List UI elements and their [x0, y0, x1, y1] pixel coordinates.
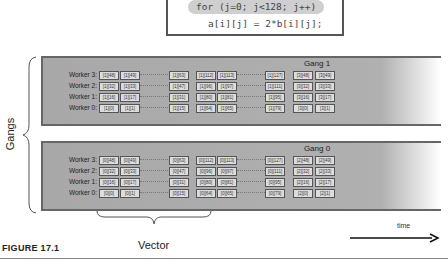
ellipsis-dots: [237, 170, 265, 171]
worker-row: Worker 3: [0][48] [0][49] [0][63] [0][11…: [43, 155, 441, 164]
vector-cell: [2][1]: [315, 189, 335, 198]
vector-cell: [0][127]: [265, 156, 285, 165]
worker-row: Worker 0: [1][0] [1][1] [1][15] [1][64] …: [43, 103, 441, 112]
vector-cell: [3][0]: [293, 104, 313, 113]
vector-cell: [0][81]: [217, 178, 237, 187]
vector-cell: [0][111]: [265, 167, 285, 176]
gang-1-panel: Gang 1 Worker 3: [1][48] [1][49] [1][63]…: [41, 56, 441, 126]
worker-row: Worker 3: [1][48] [1][49] [1][63] [1][11…: [43, 70, 441, 79]
vector-cell: [1][31]: [169, 93, 189, 102]
vector-cell: [1][49]: [120, 71, 140, 80]
ellipsis-dots: [140, 170, 168, 171]
worker-row: Worker 2: [0][32] [0][33] [0][47] [0][96…: [43, 166, 441, 175]
vector-cell: [0][80]: [196, 178, 216, 187]
worker-row: Worker 1: [1][16] [1][17] [1][31] [1][80…: [43, 92, 441, 101]
vector-cell: [0][112]: [196, 156, 216, 165]
loop-body-code: a[i][j] = 2*b[i][j];: [208, 18, 322, 30]
vector-cell: [1][33]: [120, 82, 140, 91]
vector-cell: [1][32]: [99, 82, 119, 91]
vector-cell: [2][0]: [293, 189, 313, 198]
gang-0-panel: Gang 0 Worker 3: [0][48] [0][49] [0][63]…: [41, 141, 441, 211]
vector-cell: [1][111]: [265, 82, 285, 91]
vector-cell: [0][33]: [120, 167, 140, 176]
time-label: time: [397, 222, 410, 229]
gangs-label: Gangs: [4, 118, 16, 150]
vector-cell: [0][96]: [196, 167, 216, 176]
vector-cell: [2][49]: [315, 156, 335, 165]
vector-cell: [0][0]: [99, 189, 119, 198]
worker-label: Worker 1:: [47, 177, 97, 186]
vector-cell: [1][96]: [196, 82, 216, 91]
vector-cell: [1][95]: [265, 93, 285, 102]
vector-cell: [0][113]: [217, 156, 237, 165]
vector-cell: [0][95]: [265, 178, 285, 187]
vector-brace-icon: [95, 210, 213, 230]
vector-cell: [1][65]: [217, 104, 237, 113]
vector-cell: [0][31]: [169, 178, 189, 187]
worker-label: Worker 1:: [47, 92, 97, 101]
worker-label: Worker 2:: [47, 81, 97, 90]
vector-cell: [1][16]: [99, 93, 119, 102]
vector-cell: [3][48]: [293, 71, 313, 80]
ellipsis-dots: [237, 85, 265, 86]
vector-cell: [1][0]: [99, 104, 119, 113]
vector-cell: [0][64]: [196, 189, 216, 198]
vector-cell: [3][16]: [293, 93, 313, 102]
ellipsis-dots: [140, 74, 168, 75]
worker-row: Worker 0: [0][0] [0][1] [0][15] [0][64] …: [43, 188, 441, 197]
vector-cell: [1][79]: [265, 104, 285, 113]
vector-cell: [2][17]: [315, 178, 335, 187]
ellipsis-dots: [140, 192, 168, 193]
vector-cell: [1][80]: [196, 93, 216, 102]
vector-cell: [1][127]: [265, 71, 285, 80]
vector-cell: [3][17]: [315, 93, 335, 102]
vector-cell: [1][15]: [169, 104, 189, 113]
vector-cell: [1][1]: [120, 104, 140, 113]
worker-label: Worker 3:: [47, 155, 97, 164]
ellipsis-dots: [237, 74, 265, 75]
vector-cell: [1][97]: [217, 82, 237, 91]
vector-cell: [0][97]: [217, 167, 237, 176]
worker-label: Worker 3:: [47, 70, 97, 79]
code-box: for (j=0; j<128; j++) a[i][j] = 2*b[i][j…: [166, 0, 344, 36]
vector-cell: [0][65]: [217, 189, 237, 198]
vector-cell: [1][63]: [169, 71, 189, 80]
vector-cell: [0][1]: [120, 189, 140, 198]
vector-cell: [3][1]: [315, 104, 335, 113]
vector-cell: [1][17]: [120, 93, 140, 102]
ellipsis-dots: [140, 181, 168, 182]
vector-cell: [3][33]: [315, 82, 335, 91]
vector-label: Vector: [138, 239, 169, 251]
worker-label: Worker 2:: [47, 166, 97, 175]
vector-cell: [1][81]: [217, 93, 237, 102]
vector-cell: [0][16]: [99, 178, 119, 187]
ellipsis-dots: [140, 159, 168, 160]
worker-row: Worker 2: [1][32] [1][33] [1][47] [1][96…: [43, 81, 441, 90]
gangs-brace-icon: [20, 55, 40, 215]
gang-title: Gang 0: [43, 144, 441, 153]
ellipsis-dots: [237, 107, 265, 108]
figure-caption: FIGURE 17.1: [2, 243, 59, 253]
ellipsis-dots: [237, 159, 265, 160]
vector-cell: [1][64]: [196, 104, 216, 113]
vector-cell: [3][49]: [315, 71, 335, 80]
vector-cell: [1][48]: [99, 71, 119, 80]
vector-cell: [2][33]: [315, 167, 335, 176]
worker-label: Worker 0:: [47, 103, 97, 112]
vector-cell: [1][112]: [196, 71, 216, 80]
vector-cell: [0][48]: [99, 156, 119, 165]
vector-cell: [1][113]: [217, 71, 237, 80]
ellipsis-dots: [140, 85, 168, 86]
gang-title: Gang 1: [43, 59, 441, 68]
vector-cell: [0][63]: [169, 156, 189, 165]
ellipsis-dots: [140, 107, 168, 108]
vector-cell: [0][32]: [99, 167, 119, 176]
caption-divider: [0, 258, 448, 259]
loop-header-code: for (j=0; j<128; j++): [188, 0, 324, 14]
vector-cell: [0][47]: [169, 167, 189, 176]
vector-cell: [0][17]: [120, 178, 140, 187]
worker-row: Worker 1: [0][16] [0][17] [0][31] [0][80…: [43, 177, 441, 186]
vector-cell: [0][49]: [120, 156, 140, 165]
ellipsis-dots: [237, 96, 265, 97]
vector-cell: [0][15]: [169, 189, 189, 198]
